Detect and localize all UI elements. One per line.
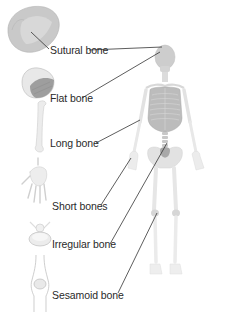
- leader-lines: [31, 32, 167, 293]
- leader-line-irregular: [110, 143, 167, 244]
- leader-line-flat: [82, 52, 160, 98]
- label-irregular-bone: Irregular bone: [52, 238, 116, 250]
- short-bones-icon: [22, 158, 47, 203]
- human-skeleton: [128, 45, 204, 274]
- label-short-bones: Short bones: [52, 200, 108, 212]
- label-long-bone: Long bone: [50, 137, 99, 149]
- leader-line-short: [101, 158, 131, 205]
- long-bone-icon: [35, 101, 46, 152]
- bone-types-diagram: Sutural bone Flat bone Long bone Short b…: [0, 0, 227, 321]
- label-flat-bone: Flat bone: [50, 92, 93, 104]
- leader-line-sesamoid: [118, 213, 157, 293]
- irregular-bone-icon: [29, 222, 51, 246]
- sesamoid-bone-icon: [31, 255, 49, 312]
- label-sutural-bone: Sutural bone: [50, 44, 108, 56]
- label-sesamoid-bone: Sesamoid bone: [52, 289, 124, 301]
- diagram-artwork: [0, 0, 227, 321]
- leader-line-long: [96, 120, 140, 143]
